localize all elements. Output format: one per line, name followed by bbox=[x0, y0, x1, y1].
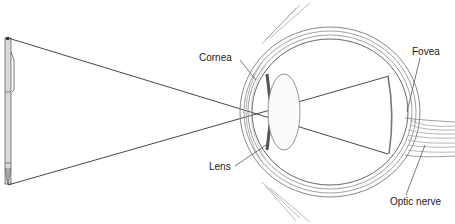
optic-nerve bbox=[405, 118, 455, 157]
eyeball bbox=[240, 3, 420, 222]
label-optic-nerve: Optic nerve bbox=[390, 196, 441, 207]
pen-icon bbox=[5, 37, 14, 185]
label-cornea: Cornea bbox=[199, 52, 232, 63]
eye-diagram bbox=[0, 0, 455, 224]
lens bbox=[268, 74, 300, 150]
label-lens: Lens bbox=[209, 161, 231, 172]
retinal-image bbox=[388, 76, 392, 154]
label-fovea: Fovea bbox=[412, 46, 440, 57]
ray-bottom bbox=[8, 76, 389, 185]
ray-top bbox=[8, 38, 388, 154]
